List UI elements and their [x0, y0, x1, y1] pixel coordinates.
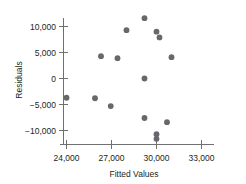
data-point — [142, 76, 148, 82]
x-axis-tick-labels: 24,000 27,000 30,000 33,000 — [54, 153, 215, 163]
scatter-plot-figure: 10,000 5,000 0 −5,000 −10,000 24,000 27,… — [0, 0, 246, 184]
data-point — [154, 136, 160, 142]
data-point — [124, 27, 130, 33]
y-tick-label-10000: 10,000 — [30, 22, 56, 32]
x-tick-label-33000: 33,000 — [189, 153, 215, 163]
x-axis-title: Fitted Values — [110, 169, 159, 179]
y-tick-label-neg5000: −5,000 — [30, 100, 57, 110]
data-point — [92, 95, 98, 101]
data-point — [115, 55, 121, 61]
data-point — [142, 115, 148, 121]
data-point — [142, 15, 148, 21]
y-axis-tick-labels: 10,000 5,000 0 −5,000 −10,000 — [25, 22, 56, 136]
data-point — [64, 95, 70, 101]
y-tick-label-0: 0 — [51, 74, 56, 84]
y-tick-label-neg10000: −10,000 — [25, 126, 56, 136]
data-point — [108, 103, 114, 109]
data-point — [98, 53, 104, 59]
data-point — [164, 119, 170, 125]
plot-canvas: 10,000 5,000 0 −5,000 −10,000 24,000 27,… — [0, 0, 246, 184]
x-tick-label-27000: 27,000 — [99, 153, 125, 163]
data-point — [154, 29, 160, 35]
y-tick-label-5000: 5,000 — [35, 48, 57, 58]
data-point — [157, 35, 163, 41]
data-points-layer — [64, 15, 175, 141]
x-tick-label-30000: 30,000 — [144, 153, 170, 163]
data-point — [169, 54, 175, 60]
y-axis-title: Residuals — [14, 61, 24, 98]
x-tick-label-24000: 24,000 — [54, 153, 80, 163]
